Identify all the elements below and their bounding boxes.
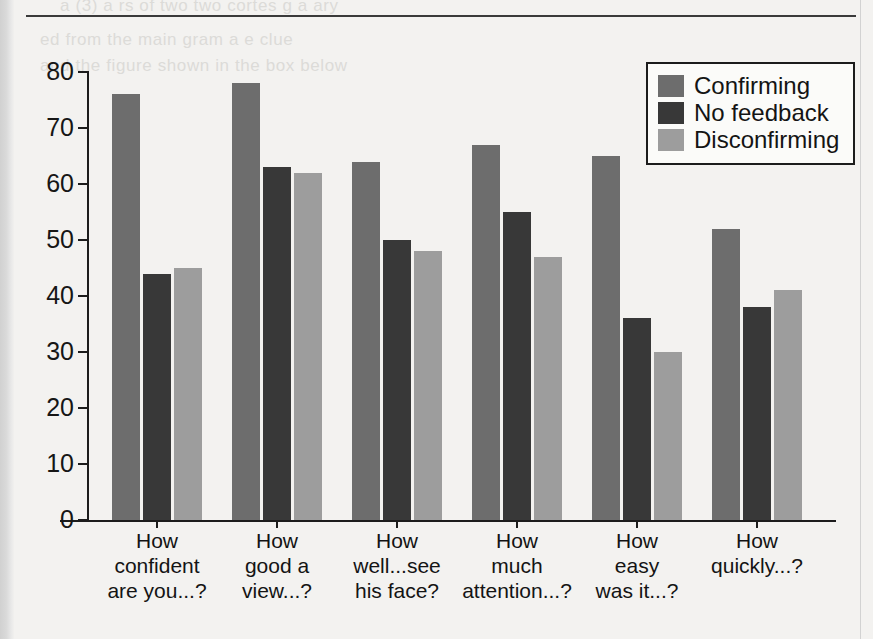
bar-disconfirming [654, 352, 682, 520]
x-axis-category-labels: How confident are you...?How good a view… [0, 528, 873, 618]
y-axis-tick-label: 40 [16, 283, 74, 308]
x-axis-category-label: How quickly...? [687, 528, 827, 578]
bar-chart: 01020304050607080 How confident are you.… [0, 0, 873, 639]
x-axis-category-label: How much attention...? [447, 528, 587, 603]
x-axis-tick [756, 520, 758, 528]
bar-confirming [112, 94, 140, 520]
x-axis-line [60, 520, 836, 522]
y-axis-tick [78, 519, 89, 521]
x-axis-category-label: How easy was it...? [567, 528, 707, 603]
bar-confirming [472, 145, 500, 520]
bar-disconfirming [294, 173, 322, 520]
y-axis-tick [78, 71, 89, 73]
x-axis-tick [516, 520, 518, 528]
y-axis-tick-label: 20 [16, 395, 74, 420]
bar-disconfirming [174, 268, 202, 520]
bar-group [352, 72, 442, 520]
y-axis-tick [78, 407, 89, 409]
bar-no-feedback [263, 167, 291, 520]
y-axis-tick-label: 80 [16, 59, 74, 84]
bar-group [472, 72, 562, 520]
bar-no-feedback [383, 240, 411, 520]
y-axis-tick-label: 50 [16, 227, 74, 252]
bar-no-feedback [503, 212, 531, 520]
x-axis-tick [156, 520, 158, 528]
y-axis-tick [78, 183, 89, 185]
bar-disconfirming [774, 290, 802, 520]
x-axis-category-label: How well...see his face? [327, 528, 467, 603]
bar-confirming [352, 162, 380, 520]
bar-confirming [232, 83, 260, 520]
y-axis-tick [78, 295, 89, 297]
y-axis-tick-label: 70 [16, 115, 74, 140]
bar-disconfirming [414, 251, 442, 520]
bar-group [592, 72, 682, 520]
bar-disconfirming [534, 257, 562, 520]
y-axis-tick-label: 60 [16, 171, 74, 196]
y-axis-tick [78, 463, 89, 465]
y-axis-tick [78, 239, 89, 241]
x-axis-tick [276, 520, 278, 528]
y-axis-tick-label: 30 [16, 339, 74, 364]
y-axis-tick [78, 127, 89, 129]
x-axis-tick [396, 520, 398, 528]
bar-confirming [592, 156, 620, 520]
bar-group [712, 72, 802, 520]
x-axis-tick [636, 520, 638, 528]
bar-group [112, 72, 202, 520]
bar-confirming [712, 229, 740, 520]
x-axis-category-label: How confident are you...? [87, 528, 227, 603]
x-axis-category-label: How good a view...? [207, 528, 347, 603]
bar-no-feedback [143, 274, 171, 520]
bar-group [232, 72, 322, 520]
y-axis-tick-label: 10 [16, 451, 74, 476]
bar-no-feedback [743, 307, 771, 520]
bar-no-feedback [623, 318, 651, 520]
y-axis-tick [78, 351, 89, 353]
